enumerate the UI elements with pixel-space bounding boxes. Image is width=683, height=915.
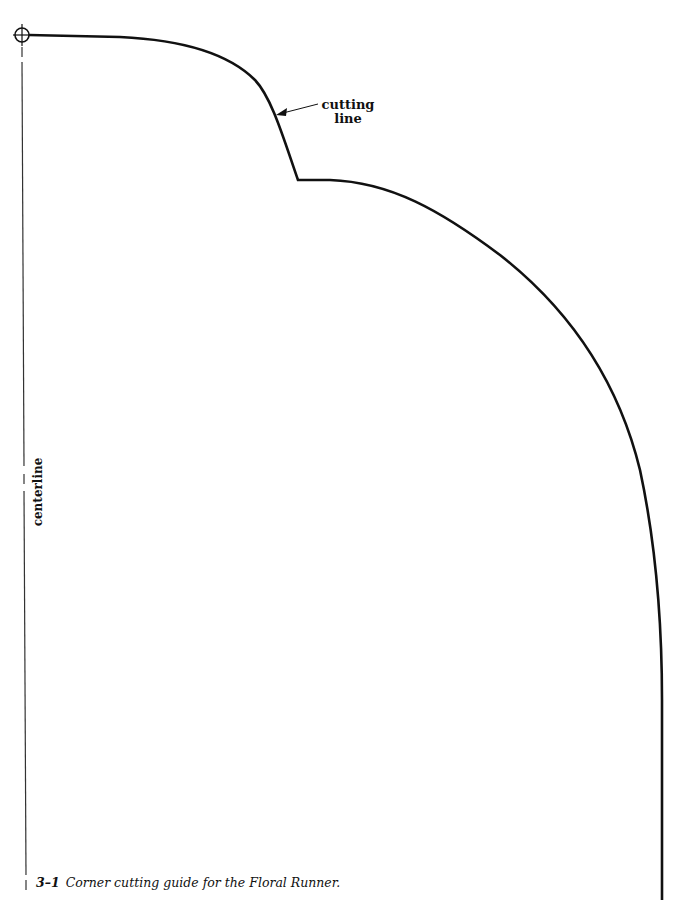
figure-number: 3–1 bbox=[36, 875, 60, 890]
cutting-line-path bbox=[29, 35, 662, 900]
cutting-line-label: cutting line bbox=[318, 98, 378, 126]
centerline-label: centerline bbox=[31, 458, 45, 527]
registration-mark-icon bbox=[13, 24, 30, 46]
cutting-line-label-line1: cutting bbox=[318, 98, 378, 112]
arrow-icon bbox=[276, 104, 318, 116]
pattern-diagram bbox=[0, 0, 683, 915]
figure-caption: 3–1Corner cutting guide for the Floral R… bbox=[36, 875, 340, 890]
figure-caption-text: Corner cutting guide for the Floral Runn… bbox=[66, 875, 341, 890]
centerline-guide bbox=[22, 47, 26, 890]
cutting-line-label-line2: line bbox=[318, 112, 378, 126]
